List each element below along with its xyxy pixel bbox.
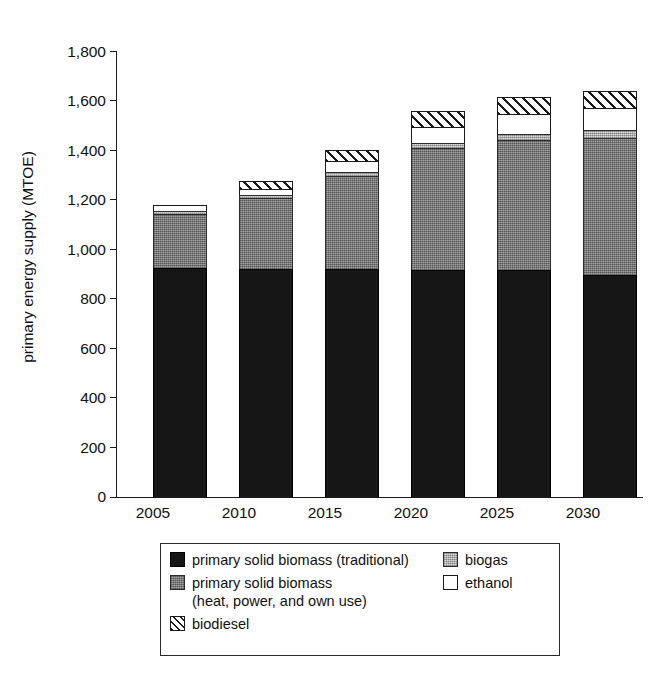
bar-segment-biodiesel-2025[interactable] [497,97,551,114]
bar-segment-heatpower-2015[interactable] [325,176,379,269]
bar-segment-ethanol-2015[interactable] [325,161,379,172]
legend-label-ethanol: ethanol [465,574,513,593]
legend-label-heat-power-group: primary solid biomass (heat, power, and … [192,574,367,611]
y-tick-label-800: 800 [32,291,106,307]
bar-segment-biodiesel-2030[interactable] [583,91,637,108]
y-tick-label-1800: 1,800 [32,44,106,60]
legend-item-biodiesel[interactable]: biodiesel [170,615,430,634]
x-tick-label-2015: 2015 [285,504,365,522]
y-tick-label-1200: 1,200 [32,192,106,208]
bar-segment-heatpower-2005[interactable] [153,214,207,268]
legend-item-ethanol[interactable]: ethanol [443,574,553,593]
x-tick-label-2005: 2005 [113,504,193,522]
legend-label-traditional: primary solid biomass (traditional) [192,551,409,570]
bar-segment-heatpower-2025[interactable] [497,140,551,270]
legend-label-biodiesel: biodiesel [192,615,249,634]
bar-segment-traditional-2015[interactable] [325,269,379,497]
legend-label-biogas: biogas [465,551,508,570]
y-tick-label-1600: 1,600 [32,93,106,109]
light-gray-swatch-icon [443,552,458,567]
diagonal-hatch-swatch-icon [170,616,185,631]
x-tick-label-2010: 2010 [199,504,279,522]
plot-area [116,51,642,497]
bar-segment-heatpower-2020[interactable] [411,148,465,271]
bar-segment-biodiesel-2020[interactable] [411,111,465,127]
bar-segment-traditional-2010[interactable] [239,269,293,497]
bar-segment-ethanol-2030[interactable] [583,108,637,130]
legend-right-column: biogas ethanol [443,551,553,596]
y-tick-label-200: 200 [32,440,106,456]
bar-2025[interactable] [497,97,551,497]
legend-item-biogas[interactable]: biogas [443,551,553,570]
x-axis-line [116,497,643,498]
chart-legend: primary solid biomass (traditional) prim… [160,543,560,656]
bar-segment-heatpower-2010[interactable] [239,198,293,269]
bar-segment-traditional-2020[interactable] [411,270,465,497]
legend-item-traditional[interactable]: primary solid biomass (traditional) [170,551,430,570]
x-tick-label-2020: 2020 [371,504,451,522]
bar-segment-biodiesel-2010[interactable] [239,181,293,190]
bar-segment-heatpower-2030[interactable] [583,138,637,276]
bar-segment-ethanol-2020[interactable] [411,127,465,143]
bar-2015[interactable] [325,150,379,497]
x-tick-label-2030: 2030 [543,504,623,522]
legend-item-heat-power[interactable]: primary solid biomass (heat, power, and … [170,574,430,611]
bar-2010[interactable] [239,181,293,497]
y-tick-label-400: 400 [32,390,106,406]
medium-gray-swatch-icon [170,575,185,590]
bar-segment-traditional-2030[interactable] [583,275,637,497]
y-tick-label-600: 600 [32,341,106,357]
bar-2020[interactable] [411,111,465,497]
page-caption-strip [0,668,666,680]
bar-2030[interactable] [583,91,637,497]
bar-segment-biodiesel-2015[interactable] [325,150,379,161]
x-tick-label-2025: 2025 [457,504,537,522]
legend-label-heat-power-line2: (heat, power, and own use) [192,593,367,609]
bar-segment-traditional-2005[interactable] [153,268,207,497]
y-tick-label-1000: 1,000 [32,242,106,258]
bar-segment-traditional-2025[interactable] [497,270,551,497]
legend-left-column: primary solid biomass (traditional) prim… [170,551,430,637]
y-tick-label-1400: 1,400 [32,143,106,159]
legend-label-heat-power-line1: primary solid biomass [192,575,332,591]
bar-2005[interactable] [153,205,207,497]
solid-black-swatch-icon [170,552,185,567]
y-tick-label-0: 0 [32,489,106,505]
bar-segment-ethanol-2025[interactable] [497,114,551,134]
bar-segment-biogas-2030[interactable] [583,130,637,137]
white-swatch-icon [443,575,458,590]
stacked-bar-chart-figure: primary energy supply (MTOE) 1,800 1,600… [0,0,666,680]
